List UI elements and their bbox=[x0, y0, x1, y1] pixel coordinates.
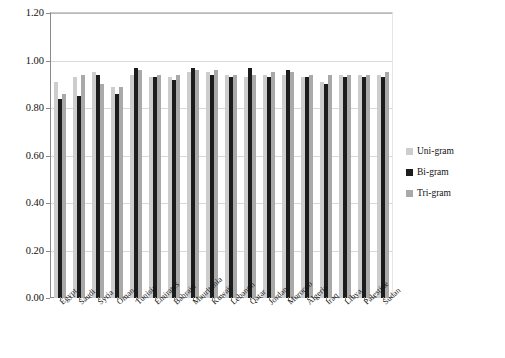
legend-item[interactable]: Tri-gram bbox=[406, 188, 454, 198]
bar bbox=[81, 75, 85, 298]
bar bbox=[271, 72, 275, 298]
bar bbox=[290, 72, 294, 298]
bar bbox=[309, 75, 313, 298]
legend-swatch-icon bbox=[406, 190, 413, 197]
bar bbox=[119, 87, 123, 298]
y-axis-tick-label: 1.20 bbox=[0, 8, 44, 19]
bar bbox=[328, 75, 332, 298]
bar-group bbox=[278, 13, 297, 298]
y-axis-tick-mark bbox=[46, 203, 50, 204]
legend-item[interactable]: Uni-gram bbox=[406, 146, 454, 156]
bar bbox=[157, 75, 161, 298]
y-axis-tick-mark bbox=[46, 108, 50, 109]
bar-group bbox=[184, 13, 203, 298]
bar-group bbox=[297, 13, 316, 298]
y-axis-tick-label: 0.60 bbox=[0, 151, 44, 162]
bar-group bbox=[165, 13, 184, 298]
bar-group bbox=[259, 13, 278, 298]
y-axis-tick-label: 0.00 bbox=[0, 293, 44, 304]
bar-group bbox=[89, 13, 108, 298]
legend-swatch-icon bbox=[406, 148, 413, 155]
legend-label: Tri-gram bbox=[417, 188, 451, 198]
y-axis-tick-label: 0.20 bbox=[0, 246, 44, 257]
bar bbox=[138, 70, 142, 298]
bar bbox=[100, 84, 104, 298]
bar-group bbox=[70, 13, 89, 298]
legend-item[interactable]: Bi-gram bbox=[406, 167, 454, 177]
legend-label: Bi-gram bbox=[417, 167, 449, 177]
legend-swatch-icon bbox=[406, 169, 413, 176]
bar-group bbox=[316, 13, 335, 298]
bar bbox=[214, 70, 218, 298]
y-axis-tick-label: 1.00 bbox=[0, 56, 44, 67]
bar bbox=[195, 70, 199, 298]
y-axis-tick-mark bbox=[46, 61, 50, 62]
bar-group bbox=[127, 13, 146, 298]
bar-group bbox=[335, 13, 354, 298]
y-axis-tick-label: 0.80 bbox=[0, 103, 44, 114]
bar-group bbox=[51, 13, 70, 298]
bar bbox=[176, 75, 180, 298]
bar bbox=[252, 75, 256, 298]
bar-group bbox=[240, 13, 259, 298]
bar-group bbox=[203, 13, 222, 298]
bar bbox=[366, 75, 370, 298]
chart-legend: Uni-gramBi-gramTri-gram bbox=[406, 146, 454, 198]
bar bbox=[385, 72, 389, 298]
bar bbox=[347, 75, 351, 298]
y-axis-tick-mark bbox=[46, 156, 50, 157]
chart-title bbox=[60, 0, 390, 2]
y-axis-tick-mark bbox=[46, 13, 50, 14]
bar-series-container bbox=[51, 13, 392, 298]
bar-group bbox=[373, 13, 392, 298]
y-axis-tick-label: 0.40 bbox=[0, 198, 44, 209]
bar bbox=[233, 75, 237, 298]
y-axis-tick-mark bbox=[46, 298, 50, 299]
bar bbox=[62, 94, 66, 298]
chart-root: 0.000.200.400.600.801.001.20 EgyptSaudiS… bbox=[0, 0, 505, 358]
bar-group bbox=[354, 13, 373, 298]
legend-label: Uni-gram bbox=[417, 146, 454, 156]
y-axis-tick-mark bbox=[46, 251, 50, 252]
bar-group bbox=[222, 13, 241, 298]
bar-group bbox=[108, 13, 127, 298]
x-axis-labels: EgyptSaudiSyriaOmanTunisiaEmiratesBahrai… bbox=[51, 300, 392, 358]
bar-group bbox=[146, 13, 165, 298]
